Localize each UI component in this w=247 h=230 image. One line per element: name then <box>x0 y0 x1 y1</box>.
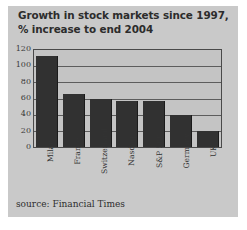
plot-area <box>33 49 222 148</box>
x-axis-tick: Germany <box>171 150 193 198</box>
y-axis-tick-label: 100 <box>9 61 31 69</box>
x-axis-tick: France <box>62 150 84 198</box>
x-axis-tick: UK <box>198 150 220 198</box>
chart-figure: Growth in stock markets since 1997, % in… <box>0 0 247 230</box>
x-axis-tick-label: S&P 500 <box>155 134 164 168</box>
y-axis-tick-label: 120 <box>9 45 31 53</box>
x-axis-tick-label: UK <box>209 145 218 157</box>
y-axis-tick-label: 20 <box>9 127 31 135</box>
bar-series <box>34 50 221 147</box>
x-axis-tick-label: Milan <box>46 140 55 162</box>
y-axis-tick-label: 40 <box>9 110 31 118</box>
y-axis-tick-label: 60 <box>9 94 31 102</box>
y-axis-tick-label: 80 <box>9 78 31 86</box>
x-axis: MilanFranceSwitzerlandNasdaqS&P 500Germa… <box>33 150 222 198</box>
y-axis: 020406080100120 <box>9 43 31 154</box>
y-axis-tick-label: 0 <box>9 143 31 151</box>
x-axis-tick: Switzerland <box>89 150 111 198</box>
x-axis-tick-label: Switzerland <box>100 128 109 174</box>
x-axis-tick: S&P 500 <box>144 150 166 198</box>
x-axis-tick-label: Germany <box>182 133 191 168</box>
x-axis-tick-label: France <box>73 137 82 164</box>
source-note: source: Financial Times <box>16 199 125 209</box>
x-axis-tick-label: Nasdaq <box>127 136 136 165</box>
chart-title: Growth in stock markets since 1997, % in… <box>18 8 223 36</box>
chart-title-line-1: Growth in stock markets since 1997, <box>18 8 223 22</box>
x-axis-tick: Nasdaq <box>116 150 138 198</box>
bar <box>36 56 58 147</box>
x-axis-tick: Milan <box>35 150 57 198</box>
chart-title-line-2: % increase to end 2004 <box>18 22 223 36</box>
